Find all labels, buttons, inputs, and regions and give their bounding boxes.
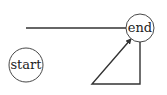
edge-loop-to-end xyxy=(92,39,140,84)
state-diagram: end start xyxy=(0,0,167,95)
node-end: end xyxy=(126,14,154,42)
node-start-label: start xyxy=(10,57,42,72)
node-end-label: end xyxy=(128,20,152,35)
node-start: start xyxy=(9,48,43,82)
